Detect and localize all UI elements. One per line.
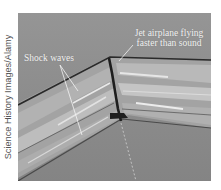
shock-wave-photo: Jet airplane flying faster than sound Sh…	[18, 13, 211, 181]
jet-label-line-1: Jet airplane flying	[124, 28, 211, 38]
shock-waves-label: Shock waves	[24, 53, 74, 63]
photo-credit-text: Science History Images/Alamy	[3, 35, 13, 160]
photo-credit: Science History Images/Alamy	[1, 13, 15, 181]
jet-label-line-2: faster than sound	[124, 38, 211, 48]
jet-airplane-label: Jet airplane flying faster than sound	[124, 28, 211, 48]
